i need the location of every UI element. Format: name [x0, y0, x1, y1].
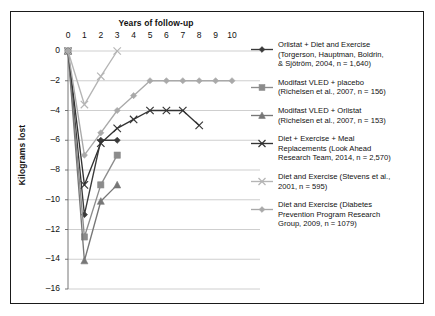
- legend-label-4: Diet and Exercise (Stevens et al.,2001, …: [274, 172, 425, 191]
- legend-item-3: Diet + Exercise + MealReplacements (Look…: [250, 134, 425, 163]
- series-5: [65, 48, 235, 158]
- legend-marker-x-icon: [250, 173, 274, 184]
- marker-diamond: [229, 78, 235, 84]
- legend-label-line: 2001, n = 595): [278, 182, 425, 192]
- marker-diamond: [259, 207, 265, 213]
- marker-diamond: [163, 78, 169, 84]
- legend-label-line: (Richelsen et al., 2007, n = 156): [278, 87, 425, 97]
- legend-label-line: (Richelsen et al., 2007, n = 153): [278, 116, 425, 126]
- marker-triangle: [81, 257, 88, 264]
- legend-label-line: Diet + Exercise + Meal: [278, 134, 425, 144]
- marker-diamond: [213, 78, 219, 84]
- legend-label-5: Diet and Exercise (DiabetesPrevention Pr…: [274, 200, 425, 229]
- legend-label-3: Diet + Exercise + MealReplacements (Look…: [274, 134, 425, 163]
- legend-marker-diamond-icon: [250, 41, 274, 52]
- series-line-5: [68, 51, 232, 155]
- legend-item-5: Diet and Exercise (DiabetesPrevention Pr…: [250, 200, 425, 229]
- marker-diamond: [114, 137, 120, 143]
- chart-legend: Orlistat + Diet and Exercise(Torgerson, …: [250, 40, 425, 238]
- legend-label-line: Prevention Program Research: [278, 210, 425, 220]
- marker-square: [259, 84, 265, 90]
- marker-diamond: [196, 78, 202, 84]
- legend-label-line: Modifast VLED + Orlistat: [278, 106, 425, 116]
- marker-diamond: [180, 78, 186, 84]
- legend-item-2: Modifast VLED + Orlistat(Richelsen et al…: [250, 106, 425, 125]
- legend-label-line: Group, 2009, n = 1079): [278, 219, 425, 229]
- series-line-3: [68, 51, 199, 185]
- legend-label-line: Research Team, 2014, n = 2,570): [278, 153, 425, 163]
- series-3: [64, 47, 203, 188]
- legend-label-2: Modifast VLED + Orlistat(Richelsen et al…: [274, 106, 425, 125]
- legend-marker-triangle-icon: [250, 107, 274, 118]
- legend-marker-x-icon: [250, 135, 274, 146]
- legend-label-line: Orlistat + Diet and Exercise: [278, 40, 425, 50]
- legend-label-line: (Torgerson, Hauptman, Boldrin,: [278, 50, 425, 60]
- legend-item-0: Orlistat + Diet and Exercise(Torgerson, …: [250, 40, 425, 69]
- marker-square: [114, 152, 120, 158]
- legend-label-line: Replacements (Look Ahead: [278, 144, 425, 154]
- legend-label-1: Modifast VLED + placebo(Richelsen et al.…: [274, 78, 425, 97]
- legend-label-line: & Sjötröm, 2004, n = 1,640): [278, 59, 425, 69]
- legend-label-line: Modifast VLED + placebo: [278, 78, 425, 88]
- legend-marker-diamond-icon: [250, 201, 274, 212]
- marker-square: [98, 182, 104, 188]
- legend-label-line: Diet and Exercise (Stevens et al.,: [278, 172, 425, 182]
- chart-figure: Years of follow-up Kilograms lost 012345…: [0, 0, 435, 316]
- legend-label-0: Orlistat + Diet and Exercise(Torgerson, …: [274, 40, 425, 69]
- legend-item-4: Diet and Exercise (Stevens et al.,2001, …: [250, 172, 425, 191]
- legend-item-1: Modifast VLED + placebo(Richelsen et al.…: [250, 78, 425, 97]
- legend-label-line: Diet and Exercise (Diabetes: [278, 200, 425, 210]
- marker-diamond: [259, 47, 265, 53]
- legend-marker-square-icon: [250, 79, 274, 90]
- marker-triangle: [114, 181, 121, 188]
